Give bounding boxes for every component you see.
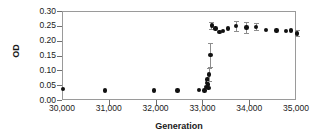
data-point (175, 88, 179, 92)
data-point (208, 53, 212, 57)
data-point (264, 28, 268, 32)
error-bar-cap (244, 22, 249, 23)
data-point (295, 31, 299, 35)
data-point (103, 88, 107, 92)
data-point (254, 25, 258, 29)
error-bar-cap (234, 31, 239, 32)
chart-figure: OD Generation 0.000.050.100.150.200.250.… (0, 0, 316, 139)
x-tick-mark (202, 100, 203, 105)
plot-area (62, 11, 296, 100)
error-bar-cap (234, 21, 239, 22)
y-tick-label: 0.10 (16, 65, 56, 75)
data-point (244, 25, 248, 29)
data-point (61, 87, 65, 91)
y-tick-label: 0.25 (16, 20, 56, 30)
error-bar-cap (254, 30, 259, 31)
y-tick-label: 0.15 (16, 50, 56, 60)
error-bar-cap (244, 33, 249, 34)
x-axis-title: Generation (62, 121, 296, 131)
error-bar-cap (207, 68, 212, 69)
x-tick-mark (109, 100, 110, 105)
error-bar-cap (208, 67, 213, 68)
data-point (197, 88, 201, 92)
x-tick-label: 35,000 (266, 103, 316, 113)
data-point (152, 88, 156, 92)
data-point (221, 29, 225, 33)
y-tick-label: 0.30 (16, 6, 56, 16)
y-tick-label: 0.20 (16, 35, 56, 45)
data-point (226, 26, 230, 30)
data-point (207, 72, 211, 76)
data-point (284, 29, 288, 33)
data-point (274, 28, 278, 32)
error-bar-cap (295, 36, 300, 37)
x-tick-mark (249, 100, 250, 105)
error-bar-cap (207, 81, 212, 82)
y-tick-mark (57, 100, 62, 101)
data-point (289, 28, 293, 32)
data-point (206, 86, 210, 90)
y-tick-label: 0.05 (16, 80, 56, 90)
x-tick-mark (156, 100, 157, 105)
data-point (234, 24, 238, 28)
error-bar-cap (208, 43, 213, 44)
